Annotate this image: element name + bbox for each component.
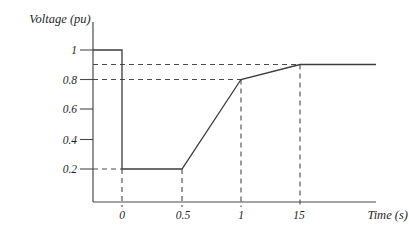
y-tick-label-1: 1 [71,44,77,56]
x-tick-label-15: 15 [293,209,305,221]
chart-canvas: Voltage (pu) Time (s) 1 0.8 0.6 0.4 0.2 … [0,0,409,233]
x-tick-label-1: 1 [238,209,244,221]
voltage-profile-curve [93,50,376,169]
x-tick-label-0: 0 [119,209,125,221]
y-tick-label-0.2: 0.2 [63,163,78,175]
y-tick-label-0.6: 0.6 [63,103,78,115]
x-tick-label-0.5: 0.5 [176,209,191,221]
x-axis-label: Time (s) [367,208,408,222]
y-tick-label-0.8: 0.8 [63,74,78,86]
voltage-time-chart: Voltage (pu) Time (s) 1 0.8 0.6 0.4 0.2 … [0,0,409,233]
y-axis-label: Voltage (pu) [29,12,90,26]
y-tick-label-0.4: 0.4 [63,134,78,146]
